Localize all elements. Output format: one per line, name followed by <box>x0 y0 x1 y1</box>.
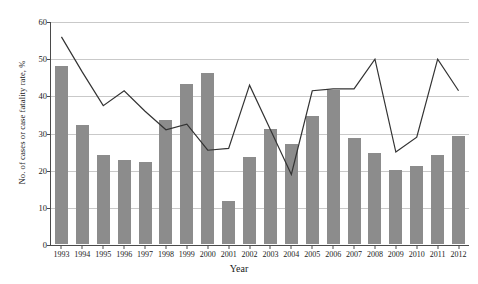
x-tick-label-2007: 2007 <box>346 250 362 259</box>
x-tick-label-2008: 2008 <box>367 250 383 259</box>
x-tick-label-1993: 1993 <box>53 250 69 259</box>
x-tick-label-2002: 2002 <box>242 250 258 259</box>
x-tick-label-2010: 2010 <box>409 250 425 259</box>
x-tick-label-2012: 2012 <box>451 250 467 259</box>
x-tick-label-2003: 2003 <box>262 250 278 259</box>
y-tick-label: 60 <box>39 17 48 27</box>
x-tick-label-2011: 2011 <box>430 250 446 259</box>
x-tick-label-2000: 2000 <box>200 250 216 259</box>
y-tick-label: 40 <box>39 91 48 101</box>
y-tick-label: 20 <box>39 166 48 176</box>
x-tick-label-1996: 1996 <box>116 250 132 259</box>
y-tick-label: 50 <box>39 54 48 64</box>
y-tick-label: 10 <box>39 203 48 213</box>
y-axis-title: No. of cases or case fatality rate, % <box>14 0 30 245</box>
y-axis-line <box>50 22 51 246</box>
x-tick-label-2004: 2004 <box>283 250 299 259</box>
line-series <box>51 22 469 245</box>
chart-figure: No. of cases or case fatality rate, % 01… <box>0 0 478 284</box>
x-tick-label-1997: 1997 <box>137 250 153 259</box>
x-tick-label-2005: 2005 <box>304 250 320 259</box>
line-path <box>61 37 458 175</box>
x-tick-label-2001: 2001 <box>221 250 237 259</box>
x-tick-label-2006: 2006 <box>325 250 341 259</box>
y-tick-label: 30 <box>39 129 48 139</box>
x-tick-label-1999: 1999 <box>179 250 195 259</box>
x-tick-label-1994: 1994 <box>74 250 90 259</box>
x-axis-line <box>50 245 469 246</box>
x-axis-title: Year <box>0 263 478 274</box>
x-tick-label-1998: 1998 <box>158 250 174 259</box>
x-tick-label-2009: 2009 <box>388 250 404 259</box>
x-tick-label-1995: 1995 <box>95 250 111 259</box>
plot-area: 0102030405060 19931994199519961997199819… <box>51 22 469 245</box>
